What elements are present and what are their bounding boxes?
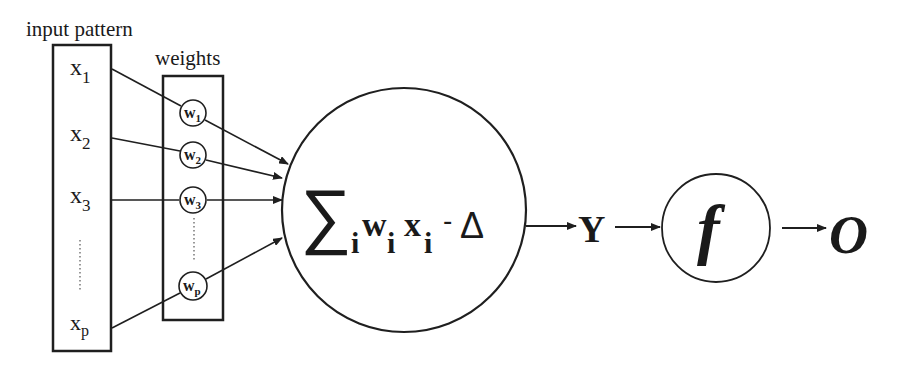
output-o: O bbox=[829, 205, 868, 265]
input-xp: xp bbox=[70, 310, 89, 340]
net-output-y: Y bbox=[578, 208, 605, 250]
weights-label: weights bbox=[155, 46, 220, 70]
connection-wp-sum bbox=[206, 238, 282, 279]
input-pattern-label: input pattern bbox=[26, 17, 133, 41]
connection-x2-w2 bbox=[112, 138, 180, 151]
input-x3: x3 bbox=[70, 182, 91, 215]
minus-sign: - bbox=[443, 205, 452, 236]
connection-w2-sum bbox=[206, 160, 282, 178]
weight-subscript: i bbox=[387, 226, 395, 259]
input-term: x bbox=[404, 206, 421, 243]
threshold-delta: Δ bbox=[460, 205, 484, 246]
svg-text:xp: xp bbox=[70, 310, 89, 340]
weight-node-wp: wp bbox=[179, 272, 207, 300]
connection-x1-w1 bbox=[112, 69, 181, 106]
summation-formula: ∑ i w i x i - Δ bbox=[300, 175, 484, 259]
connection-w1-sum bbox=[205, 120, 288, 164]
sigma-symbol: ∑ bbox=[300, 175, 351, 256]
input-x1: x1 bbox=[70, 54, 91, 87]
perceptron-diagram: input pattern x1 x2 x3 xp weights w1 w2 … bbox=[0, 0, 907, 367]
svg-text:x1: x1 bbox=[70, 54, 91, 87]
activation-f: f bbox=[697, 191, 726, 267]
connection-xp-wp bbox=[112, 293, 180, 328]
input-subscript: i bbox=[424, 226, 432, 259]
weight-node-w3: w3 bbox=[180, 187, 206, 213]
weight-term: w bbox=[362, 206, 387, 243]
svg-text:x3: x3 bbox=[70, 182, 91, 215]
weight-node-w1: w1 bbox=[180, 100, 206, 126]
svg-text:x2: x2 bbox=[70, 120, 91, 153]
sigma-subscript: i bbox=[351, 226, 359, 259]
input-x2: x2 bbox=[70, 120, 91, 153]
weight-node-w2: w2 bbox=[180, 142, 206, 168]
